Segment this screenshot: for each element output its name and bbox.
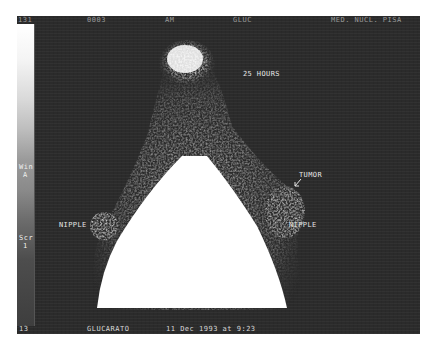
screen-value: 1: [23, 242, 28, 250]
window-value: A: [23, 171, 28, 179]
uptake-image: [17, 16, 420, 334]
left-nipple-annotation: NIPPLE: [59, 221, 87, 229]
right-nipple-annotation: NIPPLE: [289, 221, 317, 229]
window-label: Win: [19, 163, 33, 171]
tracer-agent: GLUC: [233, 16, 252, 24]
upper-hotspot: [167, 45, 203, 73]
acquisition-date: 11 Dec 1993 at 9:23: [166, 325, 256, 333]
institution-label: MED. NUCL. PISA: [331, 16, 402, 24]
footer-agent: GLUCARATO: [87, 325, 129, 333]
screen-label: Scr: [19, 234, 33, 242]
colorbar-min-value: 13: [19, 325, 28, 333]
colorbar-max-value: 131: [18, 16, 32, 24]
study-id: 0003: [87, 16, 106, 24]
tumor-arrow-icon: [293, 178, 303, 188]
scintigraphy-image-frame: 131 0003 AM GLUC MED. NUCL. PISA Win A S…: [17, 16, 420, 334]
acquisition-mode: AM: [165, 16, 174, 24]
time-annotation: 25 HOURS: [243, 70, 280, 78]
